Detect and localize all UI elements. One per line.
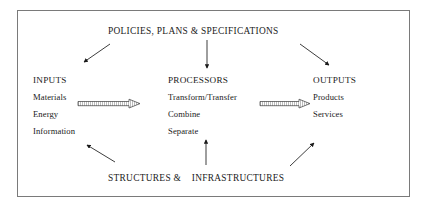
processors-item-transform-transfer: Transform/Transfer — [168, 93, 237, 102]
column-heading-inputs: INPUTS — [33, 76, 67, 85]
inputs-item-energy: Energy — [33, 110, 58, 119]
inputs-item-materials: Materials — [33, 93, 66, 102]
systems-diagram: POLICIES, PLANS & SPECIFICATIONS INPUTS … — [0, 0, 429, 211]
diagram-frame — [17, 10, 410, 197]
outputs-item-services: Services — [313, 110, 343, 119]
processors-item-combine: Combine — [168, 110, 200, 119]
policies-banner-label: POLICIES, PLANS & SPECIFICATIONS — [108, 27, 279, 36]
column-heading-processors: PROCESSORS — [168, 76, 228, 85]
processors-item-separate: Separate — [168, 127, 198, 136]
column-heading-outputs: OUTPUTS — [313, 76, 356, 85]
inputs-item-information: Information — [33, 127, 75, 136]
outputs-item-products: Products — [313, 93, 344, 102]
structures-banner-label: STRUCTURES & INFRASTRUCTURES — [108, 174, 284, 183]
